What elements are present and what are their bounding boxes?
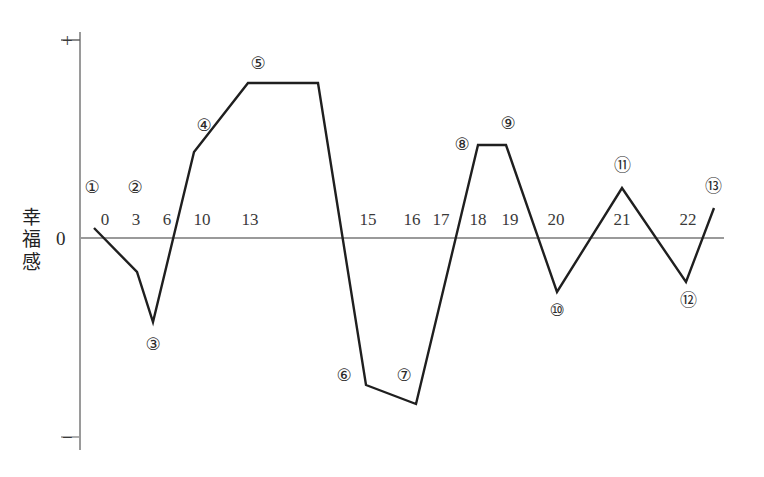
y-axis-negative-sign: −: [62, 428, 73, 447]
point-label-5: ⑤: [250, 55, 265, 72]
y-axis-zero-label: 0: [56, 229, 66, 248]
x-tick-label-18: 18: [470, 211, 487, 228]
x-tick-label-0: 0: [101, 211, 110, 228]
x-tick-label-22: 22: [680, 211, 697, 228]
x-tick-label-10: 10: [194, 211, 211, 228]
point-label-9: ⑨: [500, 115, 515, 132]
y-axis-positive-sign: +: [62, 31, 73, 50]
x-tick-label-21: 21: [614, 211, 631, 228]
happiness-line-chart: + − 0 幸福感 03610131516171819202122 ①②③④⑤⑥…: [0, 0, 764, 477]
x-tick-label-15: 15: [360, 211, 377, 228]
point-label-10: ⑩: [549, 302, 564, 319]
point-label-13: ⑬: [705, 178, 722, 195]
x-tick-label-3: 3: [132, 211, 141, 228]
point-label-2: ②: [127, 179, 142, 196]
chart-canvas: [0, 0, 764, 477]
x-tick-label-17: 17: [433, 211, 450, 228]
point-label-6: ⑥: [336, 367, 351, 384]
point-label-3: ③: [145, 336, 160, 353]
axes-group: [61, 32, 724, 450]
point-label-1: ①: [84, 179, 99, 196]
happiness-series-line: [94, 83, 714, 404]
x-tick-label-19: 19: [502, 211, 519, 228]
y-axis-title: 幸福感: [18, 206, 44, 273]
x-tick-label-6: 6: [163, 211, 172, 228]
point-label-7: ⑦: [396, 367, 411, 384]
x-tick-label-16: 16: [404, 211, 421, 228]
point-label-8: ⑧: [454, 136, 469, 153]
point-label-11: ⑪: [614, 157, 631, 174]
point-label-12: ⑫: [680, 292, 697, 309]
point-label-4: ④: [196, 117, 211, 134]
x-tick-label-20: 20: [548, 211, 565, 228]
x-tick-label-13: 13: [242, 211, 259, 228]
